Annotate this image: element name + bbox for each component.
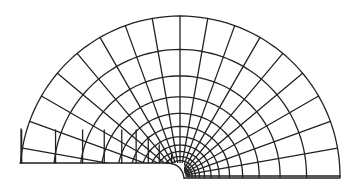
grid-lines	[20, 16, 340, 190]
polar-grid-svg	[0, 0, 342, 190]
inner-curve	[166, 163, 184, 178]
polar-grid-figure	[0, 0, 342, 190]
